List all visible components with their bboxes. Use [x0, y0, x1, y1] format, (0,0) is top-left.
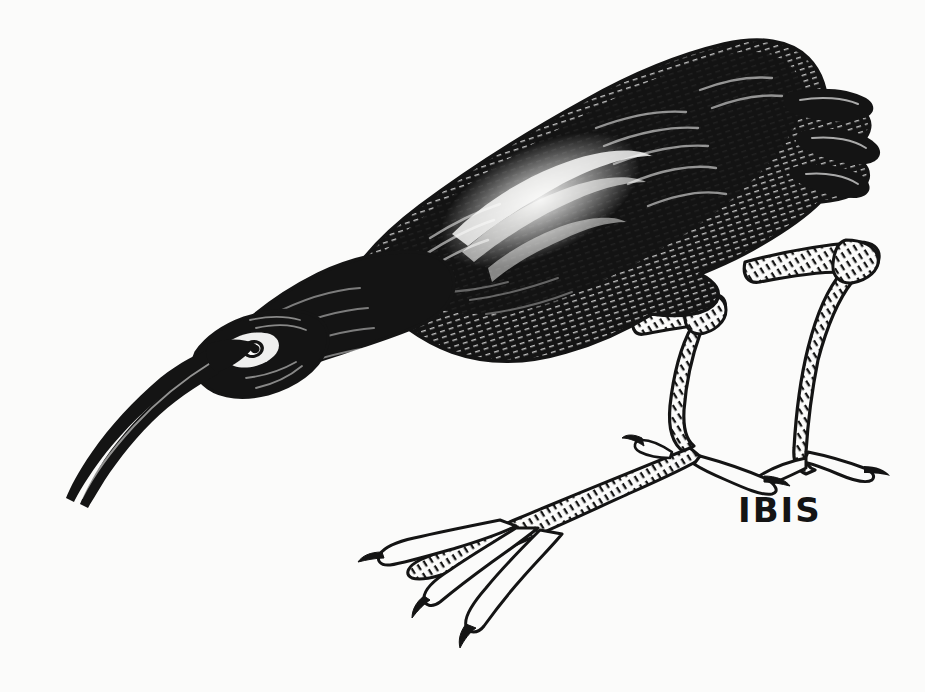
tail	[784, 89, 880, 198]
caption-label: IBIS	[738, 490, 822, 530]
illustration-canvas: IBIS	[0, 0, 925, 692]
ibis-drawing: IBIS	[0, 0, 925, 692]
caption: IBIS	[738, 490, 822, 530]
